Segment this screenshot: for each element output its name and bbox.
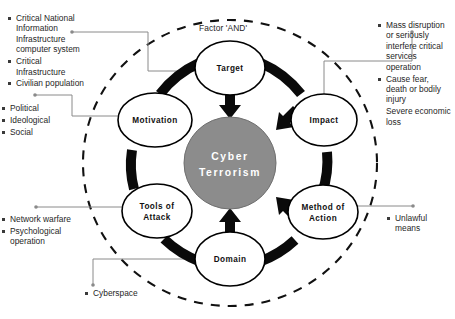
list-item: Severe economic loss — [378, 106, 452, 127]
node-target-label: Target — [216, 64, 243, 73]
core-label-line2: Terrorism — [199, 167, 261, 178]
method-of-action-annotation: Unlawful means — [387, 213, 453, 235]
ring-segment-motivation-target — [160, 63, 199, 94]
node-impact-label: Impact — [309, 116, 338, 125]
node-domain-label: Domain — [214, 255, 247, 264]
motivation-annotation: Political Ideological Social — [2, 103, 80, 139]
core-circle — [184, 117, 276, 209]
cyber-terrorism-diagram: Cyber Terrorism Target Impact Method of … — [0, 0, 455, 319]
node-tools-of-attack-label-line1: Tools of — [140, 202, 175, 211]
list-item: Social — [2, 127, 80, 137]
list-item: Critical Infrastructure — [8, 56, 88, 77]
domain-annotation-list: Cyberspace — [85, 288, 165, 298]
list-item: Political — [2, 103, 80, 113]
node-motivation-label: Motivation — [132, 116, 177, 125]
ring-segment-target-impact — [261, 63, 301, 94]
node-method-of-action-label-line2: Action — [309, 214, 337, 223]
leader-domain — [93, 259, 206, 285]
node-method-of-action-label-line1: Method of — [301, 203, 344, 212]
list-item: Civilian population — [8, 78, 88, 88]
leader-dot-motivation — [33, 93, 37, 97]
node-tools-of-attack[interactable] — [122, 184, 192, 238]
list-item: Psychological operation — [2, 226, 82, 247]
leader-target — [72, 32, 197, 71]
method-of-action-annotation-list: Unlawful means — [387, 213, 453, 234]
list-item: Cause fear, death or bodily injury — [378, 74, 452, 105]
domain-annotation: Cyberspace — [85, 288, 165, 300]
impact-annotation: Mass disruption or seriously interfere c… — [378, 20, 452, 129]
ring-segment-tools-motivation — [131, 150, 134, 189]
arrow-domain-to-core — [219, 208, 241, 234]
list-item: Unlawful means — [387, 213, 453, 234]
node-method-of-action[interactable] — [288, 185, 358, 239]
leader-dot-method — [411, 204, 415, 208]
leader-dot-tools — [34, 205, 38, 209]
list-item: Mass disruption or seriously interfere c… — [378, 20, 452, 72]
target-annotation: Critical National Information Infrastruc… — [8, 13, 88, 90]
tools-of-attack-annotation-list: Network warfare Psychological operation — [2, 214, 82, 247]
factor-and-label: Factor 'AND' — [199, 23, 247, 33]
arrow-target-to-core — [219, 93, 241, 119]
leader-dot-domain — [91, 283, 95, 287]
list-item: Ideological — [2, 115, 80, 125]
node-tools-of-attack-label-line2: Attack — [143, 213, 171, 222]
motivation-annotation-list: Political Ideological Social — [2, 103, 80, 137]
list-item: Critical National Information Infrastruc… — [8, 13, 88, 55]
impact-annotation-list: Mass disruption or seriously interfere c… — [378, 20, 452, 127]
list-item: Cyberspace — [85, 288, 165, 298]
list-item: Network warfare — [2, 214, 82, 224]
core-label-line1: Cyber — [211, 151, 248, 162]
target-annotation-list: Critical National Information Infrastruc… — [8, 13, 88, 89]
tools-of-attack-annotation: Network warfare Psychological operation — [2, 214, 82, 248]
